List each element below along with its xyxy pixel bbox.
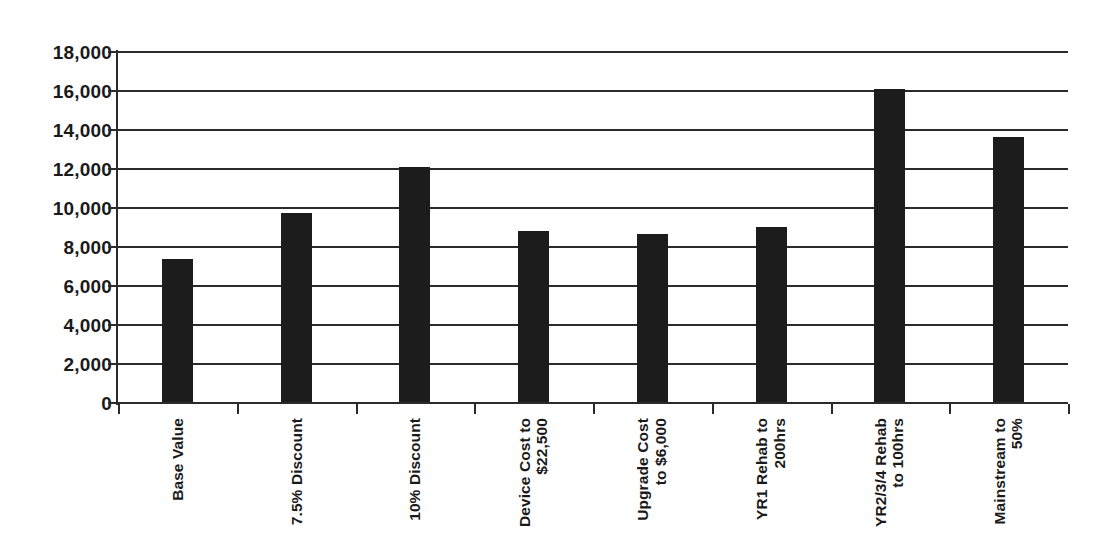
x-axis-tick-mark xyxy=(356,404,358,414)
x-axis-tick-mark xyxy=(593,404,595,414)
x-axis-tick-label: Base Value xyxy=(170,418,188,558)
x-axis-tick-mark xyxy=(712,404,714,414)
x-axis-tick-label-line: to 100hrs xyxy=(890,418,906,488)
y-axis-tick-mark xyxy=(108,285,126,287)
x-axis-tick-label-line: YR2/3/4 Rehab xyxy=(873,418,889,527)
x-axis-tick-label: Upgrade Costto $6,000 xyxy=(635,418,670,558)
x-axis-tick-label-line: Device Cost to xyxy=(517,418,533,527)
x-axis-tick-mark xyxy=(831,404,833,414)
y-axis-tick-mark xyxy=(108,402,126,404)
y-axis-tick-mark xyxy=(108,168,126,170)
x-axis-tick-label-line: 7.5% Discount xyxy=(289,418,305,525)
x-axis-tick-mark xyxy=(118,404,120,414)
y-axis-tick-mark xyxy=(108,246,126,248)
x-axis-tick-label-line: $22,500 xyxy=(534,418,550,475)
x-axis-tick-label-line: YR1 Rehab to xyxy=(754,418,770,520)
y-axis-tick-mark xyxy=(108,324,126,326)
x-axis-tick-mark xyxy=(474,404,476,414)
x-axis-tick-mark xyxy=(237,404,239,414)
x-axis-tick-label: 10% Discount xyxy=(407,418,425,558)
y-axis-tick-mark xyxy=(108,207,126,209)
y-axis-tick-mark xyxy=(108,51,126,53)
y-axis-tick-mark xyxy=(108,363,126,365)
bar-chart: 18,00016,00014,00012,00010,0008,0006,000… xyxy=(0,0,1104,560)
x-axis-tick-label-line: 200hrs xyxy=(772,418,788,469)
x-axis-tick-label-line: Base Value xyxy=(170,418,186,501)
x-axis-tick-label-line: Upgrade Cost xyxy=(635,418,651,521)
x-axis-tick-label-line: 10% Discount xyxy=(407,418,423,521)
x-axis-tick-mark xyxy=(949,404,951,414)
x-axis-tick-label: YR1 Rehab to200hrs xyxy=(754,418,789,558)
x-axis-tick-label-line: to $6,000 xyxy=(653,418,669,485)
x-axis-tick-label: 7.5% Discount xyxy=(289,418,307,558)
x-axis-tick-label: Device Cost to$22,500 xyxy=(517,418,552,558)
x-axis-tick-label-group: Base Value7.5% Discount10% DiscountDevic… xyxy=(0,0,1104,560)
x-axis-tick-label-line: 50% xyxy=(1009,418,1025,449)
x-axis-tick-label: Mainstream to50% xyxy=(992,418,1027,558)
x-axis-tick-label-line: Mainstream to xyxy=(992,418,1008,524)
y-axis-tick-mark xyxy=(108,129,126,131)
x-axis-tick-mark xyxy=(1068,404,1070,414)
y-axis-tick-mark xyxy=(108,90,126,92)
x-axis-tick-label: YR2/3/4 Rehabto 100hrs xyxy=(873,418,908,558)
